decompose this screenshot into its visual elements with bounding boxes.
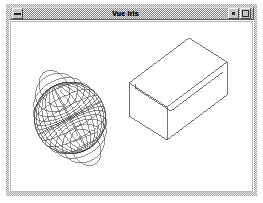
window-controls <box>228 8 251 19</box>
wireframe-canvas <box>11 22 252 191</box>
window-title: Vue Iris <box>23 10 228 17</box>
maximize-icon[interactable] <box>240 8 251 19</box>
title-bar[interactable]: Vue Iris <box>9 7 254 20</box>
wireframe-sphere <box>14 55 127 182</box>
minimize-icon[interactable] <box>228 8 239 19</box>
open-box <box>129 38 227 140</box>
window-frame-bottom[interactable] <box>6 192 257 196</box>
window-menu-icon[interactable] <box>12 8 23 19</box>
application-window: Vue Iris <box>6 4 257 196</box>
window-frame-right[interactable] <box>254 4 257 196</box>
window-frame-left[interactable] <box>6 4 9 196</box>
drawing-area[interactable] <box>10 21 253 192</box>
